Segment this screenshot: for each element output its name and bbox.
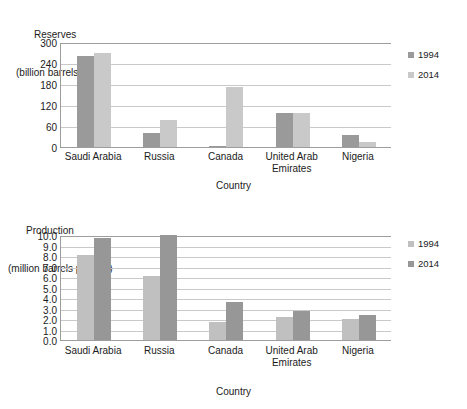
x-axis-category-label: Russia [126,151,192,163]
bar-group [61,236,127,340]
x-axis-category-label: Russia [126,345,192,357]
bar-united-arab-emirates-2014 [293,113,310,147]
category-label-line: United Arab [259,151,325,163]
bar-saudi-arabia-1994 [77,255,94,340]
bar-canada-1994 [209,146,226,147]
reserves-legend-label-1994: 1994 [418,49,439,60]
production-chart: Production (million barrels per day) 0.0… [0,196,467,409]
production-legend-label-2014: 2014 [418,258,439,269]
y-axis-tick-label: 240 [40,59,57,70]
y-axis-tick-label: 3.0 [43,304,57,315]
category-label-line: Nigeria [325,345,391,357]
bar-group [193,43,259,147]
legend-swatch-1994-icon [408,241,414,247]
x-axis-category-label: Nigeria [325,151,391,163]
bar-united-arab-emirates-2014 [293,311,310,340]
bar-saudi-arabia-2014 [94,53,111,147]
y-axis-tick-label: 60 [46,122,57,133]
category-label-line: Canada [192,345,258,357]
bar-united-arab-emirates-1994 [276,317,293,340]
category-label-line: Saudi Arabia [60,151,126,163]
y-axis-tick-label: 5.0 [43,283,57,294]
y-axis-tick-label: 0.0 [43,336,57,347]
reserves-plot-area: 060120180240300 [60,43,391,148]
bar-russia-2014 [160,235,177,340]
y-axis-tick-label: 300 [40,38,57,49]
bar-group [260,43,326,147]
y-axis-tick-label: 10.0 [38,231,57,242]
reserves-legend-item-2014[interactable]: 2014 [408,69,439,80]
production-legend-item-2014[interactable]: 2014 [408,258,439,269]
bar-group [260,236,326,340]
y-axis-tick-label: 0 [51,143,57,154]
x-axis-category-label: Canada [192,151,258,163]
reserves-legend: 1994 2014 [408,49,439,89]
x-axis-category-label: United ArabEmirates [259,151,325,175]
production-legend-label-1994: 1994 [418,238,439,249]
bar-russia-1994 [143,133,160,147]
y-axis-tick-label: 120 [40,101,57,112]
bar-nigeria-2014 [359,315,376,340]
bar-united-arab-emirates-1994 [276,113,293,147]
category-label-line: Saudi Arabia [60,345,126,357]
legend-swatch-1994-icon [408,52,414,58]
category-label-line: Russia [126,345,192,357]
category-label-line: United Arab [259,345,325,357]
bar-group [326,236,392,340]
bar-nigeria-2014 [359,142,376,147]
bar-group [61,43,127,147]
legend-swatch-2014-icon [408,72,414,78]
reserves-legend-item-1994[interactable]: 1994 [408,49,439,60]
production-x-axis-title: Country [0,386,467,397]
y-axis-tick-label: 4.0 [43,294,57,305]
x-axis-category-label: Saudi Arabia [60,151,126,163]
bar-group [127,43,193,147]
y-axis-tick-label: 1.0 [43,325,57,336]
category-label-line: Canada [192,151,258,163]
bar-saudi-arabia-2014 [94,238,111,340]
y-axis-tick-label: 7.0 [43,262,57,273]
production-legend-item-1994[interactable]: 1994 [408,238,439,249]
bar-canada-2014 [226,302,243,340]
production-legend: 1994 2014 [408,238,439,278]
bar-canada-2014 [226,87,243,147]
production-plot-area: 0.01.02.03.04.05.06.07.08.09.010.0 [60,236,391,341]
x-axis-category-label: United ArabEmirates [259,345,325,369]
y-axis-tick-label: 8.0 [43,252,57,263]
legend-swatch-2014-icon [408,261,414,267]
reserves-x-axis-title: Country [0,180,467,191]
x-axis-category-label: Nigeria [325,345,391,357]
bar-group [326,43,392,147]
bar-russia-2014 [160,120,177,147]
reserves-legend-label-2014: 2014 [418,69,439,80]
bar-saudi-arabia-1994 [77,56,94,147]
reserves-chart: Reserves (billion barrels) 0601201802403… [0,0,467,200]
bar-group [193,236,259,340]
y-axis-tick-label: 9.0 [43,241,57,252]
bar-nigeria-1994 [342,319,359,340]
bar-russia-1994 [143,276,160,340]
category-label-line: Emirates [259,163,325,175]
y-axis-tick-label: 6.0 [43,273,57,284]
bar-group [127,236,193,340]
category-label-line: Emirates [259,357,325,369]
bar-canada-1994 [209,322,226,340]
x-axis-category-label: Saudi Arabia [60,345,126,357]
category-label-line: Russia [126,151,192,163]
bar-nigeria-1994 [342,135,359,147]
x-axis-category-label: Canada [192,345,258,357]
y-axis-tick-label: 180 [40,80,57,91]
y-axis-tick-label: 2.0 [43,315,57,326]
category-label-line: Nigeria [325,151,391,163]
